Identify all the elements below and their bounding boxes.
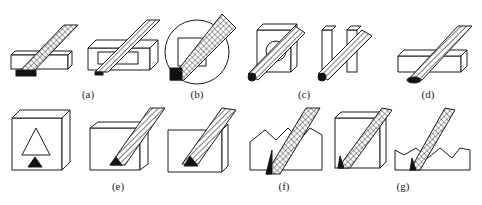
label-c: (c) <box>298 88 310 100</box>
label-g: (g) <box>397 180 410 192</box>
label-b: (b) <box>191 88 204 100</box>
panel-f <box>250 108 322 174</box>
label-f: (f) <box>279 180 290 192</box>
panel-c <box>248 24 372 81</box>
label-a: (a) <box>82 88 94 100</box>
panel-a <box>11 20 160 76</box>
label-d: (d) <box>422 88 435 100</box>
diagram-canvas <box>0 0 482 205</box>
label-e: (e) <box>112 180 124 192</box>
panel-e <box>12 108 236 172</box>
panel-d <box>398 26 472 83</box>
panel-b <box>165 14 236 84</box>
panel-g <box>335 108 470 170</box>
